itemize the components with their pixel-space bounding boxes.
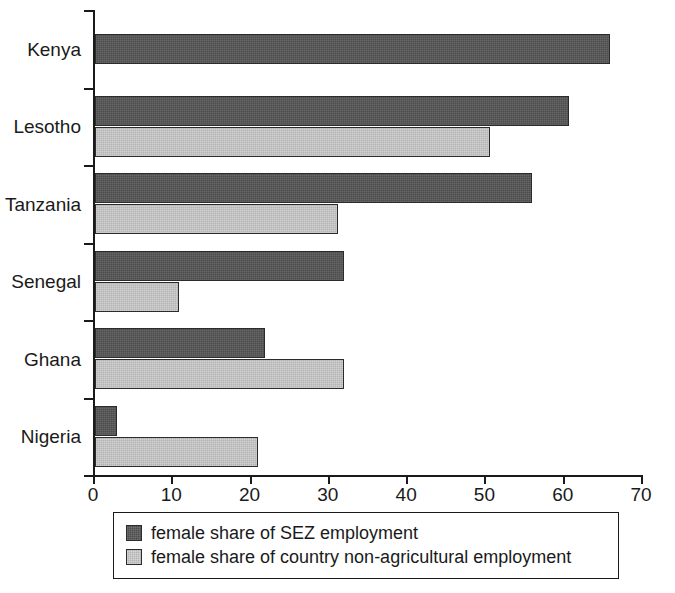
legend-item-nonag: female share of country non-agricultural… — [126, 545, 608, 569]
x-axis-tick — [484, 475, 486, 484]
x-axis-line — [93, 475, 643, 477]
y-axis-tick — [84, 320, 93, 322]
x-axis-tick-label: 70 — [630, 485, 651, 504]
x-axis-tick — [641, 475, 643, 484]
x-axis-tick-label: 10 — [161, 485, 182, 504]
y-axis-category-label: Kenya — [27, 39, 81, 58]
legend-swatch-sez-icon — [126, 525, 142, 541]
bar-kenya-sez — [95, 34, 610, 64]
x-axis-tick — [171, 475, 173, 484]
plot-area: KenyaLesothoTanzaniaSenegalGhanaNigeria … — [93, 10, 641, 475]
y-axis-tick — [84, 10, 93, 12]
y-axis-category-label: Tanzania — [5, 194, 81, 213]
legend-label-nonag: female share of country non-agricultural… — [151, 548, 571, 566]
x-axis-tick-label: 0 — [88, 485, 99, 504]
bar-chart: KenyaLesothoTanzaniaSenegalGhanaNigeria … — [0, 0, 675, 593]
bar-nigeria-nonag — [95, 437, 258, 467]
x-axis-tick — [563, 475, 565, 484]
y-axis-category-label: Lesotho — [13, 117, 81, 136]
bar-lesotho-sez — [95, 96, 569, 126]
x-axis-tick — [406, 475, 408, 484]
bar-senegal-sez — [95, 251, 344, 281]
x-axis-tick-label: 60 — [552, 485, 573, 504]
y-axis-category-label: Senegal — [11, 272, 81, 291]
bar-ghana-nonag — [95, 359, 344, 389]
x-axis-tick-label: 20 — [239, 485, 260, 504]
y-axis-tick — [84, 243, 93, 245]
bar-tanzania-sez — [95, 173, 532, 203]
x-axis-tick — [250, 475, 252, 484]
x-axis-tick — [93, 475, 95, 484]
x-axis-tick-label: 30 — [317, 485, 338, 504]
legend-label-sez: female share of SEZ employment — [151, 524, 418, 542]
legend-item-sez: female share of SEZ employment — [126, 521, 608, 545]
y-axis-category-label: Nigeria — [21, 427, 81, 446]
bar-senegal-nonag — [95, 282, 179, 312]
chart-legend: female share of SEZ employment female sh… — [113, 512, 619, 579]
y-axis-tick — [84, 165, 93, 167]
y-axis-tick — [84, 88, 93, 90]
legend-swatch-nonag-icon — [126, 549, 142, 565]
x-axis-tick — [328, 475, 330, 484]
bar-tanzania-nonag — [95, 204, 338, 234]
x-axis-tick-label: 50 — [474, 485, 495, 504]
y-axis-tick — [84, 475, 93, 477]
y-axis-tick — [84, 398, 93, 400]
bar-nigeria-sez — [95, 406, 117, 436]
y-axis-category-label: Ghana — [24, 349, 81, 368]
x-axis-tick-label: 40 — [396, 485, 417, 504]
bar-ghana-sez — [95, 328, 265, 358]
bar-lesotho-nonag — [95, 127, 490, 157]
